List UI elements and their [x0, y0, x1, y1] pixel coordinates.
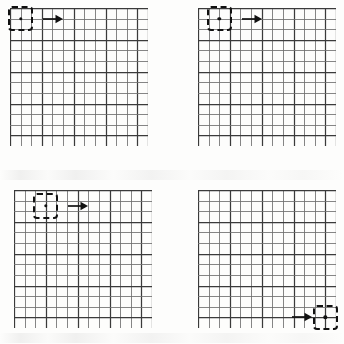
arrow-right-icon — [43, 13, 63, 25]
panel-bottom-right[interactable] — [198, 190, 336, 328]
scan-artifact-top — [0, 170, 344, 180]
scan-artifact-bottom — [0, 333, 344, 343]
arrow-right-icon — [292, 311, 312, 323]
panel-top-right[interactable] — [198, 8, 336, 146]
arrow-right-icon — [242, 13, 262, 25]
panel-bottom-left[interactable] — [14, 190, 152, 328]
figure-canvas — [0, 0, 344, 344]
arrow-right-icon — [68, 200, 88, 212]
panel-top-left[interactable] — [10, 8, 148, 146]
